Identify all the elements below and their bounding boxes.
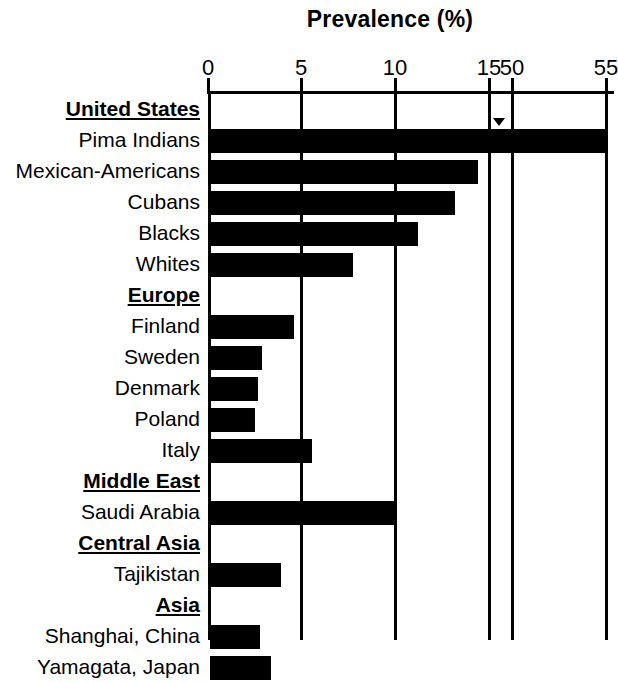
chart-bar-row: Poland bbox=[0, 404, 614, 435]
chart-bar-row: Saudi Arabia bbox=[0, 497, 614, 528]
chart-bar-row: Yamagata, Japan bbox=[0, 652, 614, 683]
tick-mark-10 bbox=[394, 78, 397, 94]
chart-bar-row: Whites bbox=[0, 249, 614, 280]
chart-bar-row: Finland bbox=[0, 311, 614, 342]
chart-bar-row: Pima Indians bbox=[0, 125, 614, 156]
tick-mark-0 bbox=[207, 78, 210, 94]
row-label: Cubans bbox=[128, 187, 200, 218]
bar bbox=[210, 501, 394, 525]
chart-bar-row: Tajikistan bbox=[0, 559, 614, 590]
chart-bar-row: Cubans bbox=[0, 187, 614, 218]
bar bbox=[210, 253, 353, 277]
chart-group-header: Asia bbox=[0, 590, 614, 621]
chart-bar-row: Mexican-Americans bbox=[0, 156, 614, 187]
row-label: Poland bbox=[135, 404, 200, 435]
chart-rows: United StatesPima IndiansMexican-America… bbox=[0, 94, 614, 683]
chart-bar-row: Italy bbox=[0, 435, 614, 466]
row-label: Asia bbox=[156, 590, 200, 621]
row-label: Yamagata, Japan bbox=[37, 652, 200, 683]
bar bbox=[210, 377, 258, 401]
chart-group-header: Europe bbox=[0, 280, 614, 311]
chart-group-header: United States bbox=[0, 94, 614, 125]
chart-bar-row: Sweden bbox=[0, 342, 614, 373]
bar bbox=[210, 563, 281, 587]
row-label: United States bbox=[66, 94, 200, 125]
row-label: Blacks bbox=[138, 218, 200, 249]
chart-bar-row: Blacks bbox=[0, 218, 614, 249]
bar bbox=[210, 129, 605, 153]
chart-group-header: Central Asia bbox=[0, 528, 614, 559]
row-label: Europe bbox=[128, 280, 200, 311]
tick-mark-5 bbox=[300, 78, 303, 94]
tick-mark-55 bbox=[605, 78, 608, 94]
row-label: Pima Indians bbox=[79, 125, 200, 156]
row-label: Finland bbox=[131, 311, 200, 342]
bar bbox=[210, 408, 255, 432]
chart-group-header: Middle East bbox=[0, 466, 614, 497]
row-label: Whites bbox=[136, 249, 200, 280]
x-axis-tick-labels: 0510155055 bbox=[0, 55, 614, 85]
bar bbox=[210, 346, 262, 370]
bar bbox=[210, 160, 478, 184]
bar bbox=[210, 222, 418, 246]
bar bbox=[210, 439, 312, 463]
row-label: Tajikistan bbox=[114, 559, 200, 590]
bar bbox=[210, 191, 455, 215]
bar bbox=[210, 656, 271, 680]
row-label: Central Asia bbox=[78, 528, 200, 559]
row-label: Shanghai, China bbox=[45, 621, 200, 652]
chart-bar-row: Denmark bbox=[0, 373, 614, 404]
row-label: Denmark bbox=[115, 373, 200, 404]
chart-title: Prevalence (%) bbox=[208, 5, 572, 33]
row-label: Middle East bbox=[83, 466, 200, 497]
row-label: Saudi Arabia bbox=[81, 497, 200, 528]
tick-mark-15 bbox=[488, 78, 491, 94]
bar bbox=[210, 625, 260, 649]
chart-bar-row: Shanghai, China bbox=[0, 621, 614, 652]
row-label: Italy bbox=[161, 435, 200, 466]
row-label: Mexican-Americans bbox=[16, 156, 200, 187]
bar bbox=[210, 315, 294, 339]
tick-mark-50 bbox=[511, 78, 514, 94]
row-label: Sweden bbox=[124, 342, 200, 373]
